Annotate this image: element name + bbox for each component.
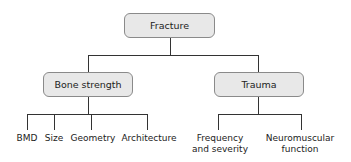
connector-trauma-horizontal <box>218 114 302 115</box>
leaf-frequency-line2: and severity <box>192 144 248 155</box>
connector-bmd <box>27 114 28 130</box>
connector-root-down <box>170 38 171 55</box>
node-fracture: Fracture <box>124 13 215 38</box>
leaf-architecture: Architecture <box>121 133 176 144</box>
connector-to-trauma <box>258 55 259 72</box>
connector-root-horizontal <box>88 55 259 56</box>
connector-to-bone-strength <box>88 55 89 72</box>
node-bone-strength: Bone strength <box>43 72 133 97</box>
leaf-frequency-line1: Frequency <box>192 133 248 144</box>
leaf-geometry: Geometry <box>71 133 116 144</box>
node-fracture-label: Fracture <box>150 20 189 31</box>
connector-trauma-down <box>258 97 259 114</box>
leaf-bmd: BMD <box>17 133 38 144</box>
leaf-neuromuscular-line2: function <box>266 144 335 155</box>
connector-neuromuscular <box>301 114 302 130</box>
connector-geometry <box>91 114 92 130</box>
connector-size <box>54 114 55 130</box>
leaf-size: Size <box>45 133 63 144</box>
node-trauma: Trauma <box>214 72 304 97</box>
leaf-neuromuscular-function: Neuromuscular function <box>266 133 335 155</box>
connector-architecture <box>147 114 148 130</box>
connector-frequency <box>218 114 219 130</box>
connector-bone-horizontal <box>27 114 148 115</box>
leaf-neuromuscular-line1: Neuromuscular <box>266 133 335 144</box>
node-trauma-label: Trauma <box>241 79 276 90</box>
connector-bone-down <box>88 97 89 114</box>
node-bone-strength-label: Bone strength <box>54 79 121 90</box>
leaf-frequency-severity: Frequency and severity <box>192 133 248 155</box>
